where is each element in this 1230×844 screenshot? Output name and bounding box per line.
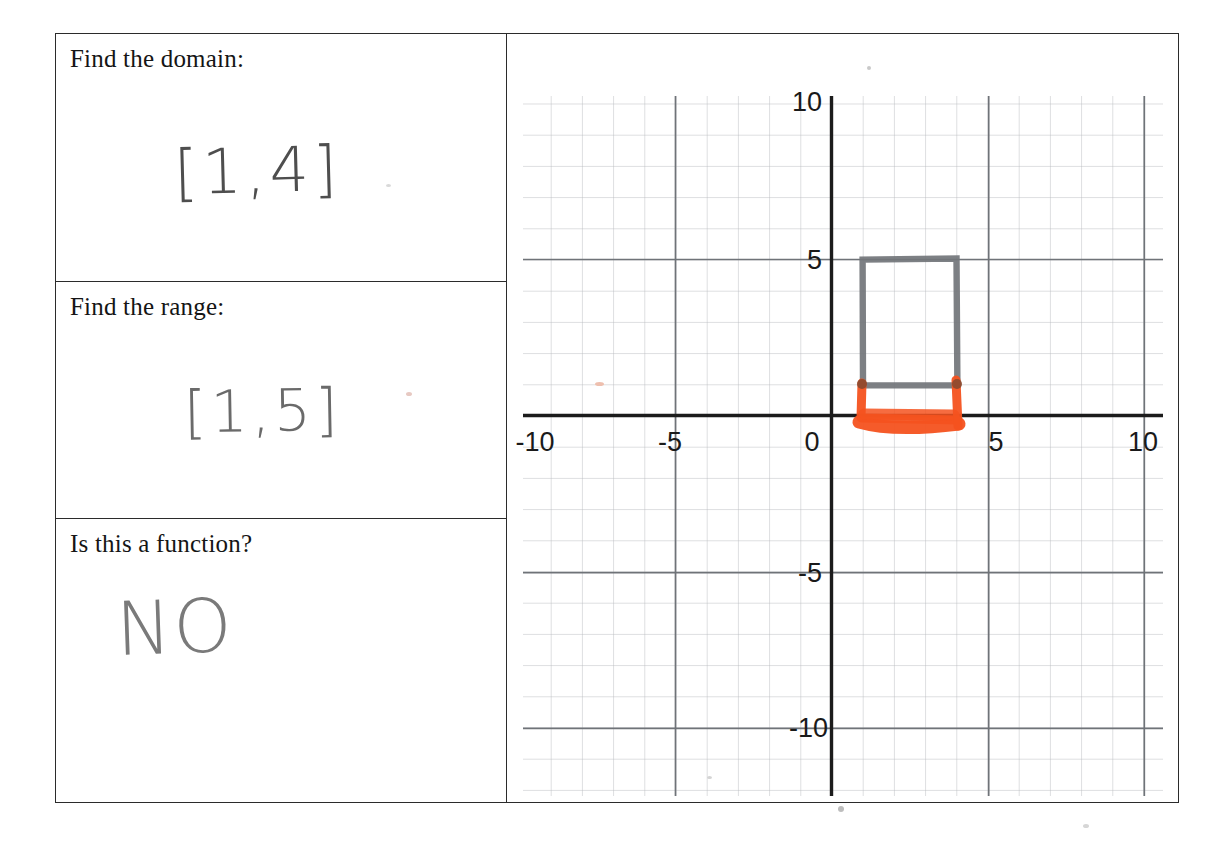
scan-speck [838,806,844,812]
scan-speck [386,184,391,187]
graph-canvas [507,34,1178,801]
question-prompt-domain: Find the domain: [70,45,244,73]
y-tick-label--5: -5 [798,560,822,587]
handwritten-answer-function: NO [115,582,236,672]
x-tick-label--5: -5 [658,429,682,456]
minor-gridlines [523,96,1163,796]
scan-speck [867,66,871,70]
x-tick-label-5: 5 [988,429,1003,456]
question-cell-function: Is this a function? NO [56,519,506,802]
question-cell-range: Find the range: [1,5] [56,282,506,519]
scan-speck [595,382,604,386]
question-cell-domain: Find the domain: [1,4] [56,34,506,282]
y-tick-label--10: -10 [789,715,828,742]
worksheet-frame: Find the domain: [1,4] Find the range: [… [55,33,1179,803]
y-tick-label-5: 5 [807,247,822,274]
coordinate-plane: -10 -5 0 5 10 10 5 -5 -10 [507,34,1178,801]
question-prompt-range: Find the range: [70,293,224,321]
origin-label: 0 [804,429,819,456]
y-tick-label-10: 10 [792,89,822,116]
handwritten-answer-range: [1,5] [183,376,342,447]
x-tick-label-10: 10 [1128,429,1158,456]
scan-speck [406,392,412,396]
x-tick-label--10: -10 [515,429,554,456]
scan-speck [1083,824,1089,828]
graph-column: -10 -5 0 5 10 10 5 -5 -10 [507,34,1178,802]
handwritten-answer-domain: [1,4] [173,132,342,209]
question-prompt-function: Is this a function? [70,530,252,558]
scan-speck [707,776,712,779]
question-column: Find the domain: [1,4] Find the range: [… [56,34,507,802]
